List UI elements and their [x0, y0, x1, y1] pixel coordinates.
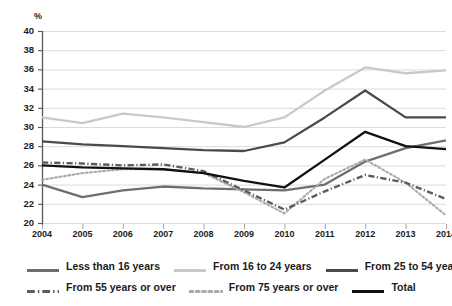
- legend-line-swatch: [26, 265, 60, 275]
- x-tick-label: 2011: [305, 229, 345, 239]
- series-line-from-16-to-24-years: [42, 67, 446, 127]
- legend-item[interactable]: From 16 to 24 years: [173, 260, 312, 272]
- y-axis-unit-label: %: [34, 11, 42, 21]
- legend-label: From 55 years or over: [66, 281, 176, 293]
- chart-legend: Less than 16 yearsFrom 16 to 24 yearsFro…: [0, 252, 452, 306]
- legend-line-swatch: [26, 286, 60, 296]
- legend-line-swatch: [189, 286, 223, 296]
- legend-item[interactable]: Total: [351, 281, 415, 293]
- legend-item[interactable]: Less than 16 years: [26, 260, 160, 272]
- legend-label: Less than 16 years: [66, 260, 160, 272]
- y-tick-label: 20: [12, 217, 34, 228]
- legend-swatch: [173, 261, 207, 271]
- x-tick-label: 2004: [22, 229, 62, 239]
- legend-label: From 25 to 54 years: [365, 260, 452, 272]
- series-line-from-25-to-54-years: [42, 91, 446, 151]
- legend-label: From 16 to 24 years: [213, 260, 312, 272]
- y-tick-label: 36: [12, 63, 34, 74]
- plot-area: [0, 0, 452, 250]
- line-chart-svg: [0, 0, 452, 250]
- x-tick-label: 2013: [386, 229, 426, 239]
- y-tick-label: 26: [12, 159, 34, 170]
- x-tick-label: 2014: [426, 229, 452, 239]
- legend-row-2: From 55 years or overFrom 75 years or ov…: [26, 276, 452, 297]
- legend-swatch: [325, 261, 359, 271]
- legend-swatch: [26, 282, 60, 292]
- legend-line-swatch: [173, 265, 207, 275]
- y-tick-label: 30: [12, 121, 34, 132]
- legend-item[interactable]: From 75 years or over: [189, 281, 339, 293]
- x-tick-label: 2012: [345, 229, 385, 239]
- legend-line-swatch: [325, 265, 359, 275]
- series-line-from-55-years-or-over: [42, 163, 446, 210]
- y-tick-label: 28: [12, 140, 34, 151]
- legend-swatch: [189, 282, 223, 292]
- y-tick-label: 24: [12, 179, 34, 190]
- legend-row-1: Less than 16 yearsFrom 16 to 24 yearsFro…: [26, 255, 452, 276]
- y-tick-label: 32: [12, 102, 34, 113]
- y-tick-label: 40: [12, 25, 34, 36]
- legend-line-swatch: [351, 286, 385, 296]
- x-tick-label: 2007: [143, 229, 183, 239]
- legend-swatch: [26, 261, 60, 271]
- legend-label: From 75 years or over: [229, 281, 339, 293]
- chart-page: % 4038363432302826242220 200420052006200…: [0, 0, 452, 306]
- x-tick-label: 2005: [62, 229, 102, 239]
- y-tick-label: 22: [12, 198, 34, 209]
- x-tick-label: 2008: [184, 229, 224, 239]
- legend-swatch: [351, 282, 385, 292]
- y-tick-label: 38: [12, 44, 34, 55]
- x-tick-label: 2009: [224, 229, 264, 239]
- legend-label: Total: [391, 281, 415, 293]
- series-layer: [42, 67, 446, 215]
- axes: [38, 31, 447, 229]
- legend-item[interactable]: From 55 years or over: [26, 281, 176, 293]
- y-tick-label: 34: [12, 83, 34, 94]
- x-tick-label: 2006: [103, 229, 143, 239]
- x-tick-label: 2010: [264, 229, 304, 239]
- legend-item[interactable]: From 25 to 54 years: [325, 260, 452, 272]
